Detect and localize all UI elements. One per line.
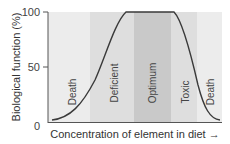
band-label-toxic: Toxic xyxy=(180,81,191,104)
band-label-optimum: Optimum xyxy=(147,63,158,104)
band-label-death-right: Death xyxy=(205,79,216,106)
y-tick-label-50: 50 xyxy=(28,61,40,73)
band-label-death-left: Death xyxy=(67,79,78,106)
x-axis-title: Concentration of element in diet → xyxy=(50,128,219,140)
chart-canvas: 100 50 0 Biological function (%) Concent… xyxy=(0,0,230,144)
y-tick-label-100: 100 xyxy=(22,6,40,18)
y-tick-label-0: 0 xyxy=(34,120,40,132)
y-axis-title: Biological function (%) xyxy=(10,13,22,122)
band-label-deficient: Deficient xyxy=(109,63,120,102)
